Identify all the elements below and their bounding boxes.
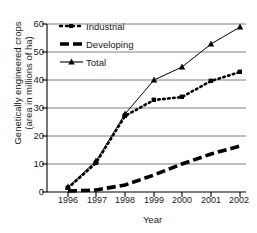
series-line-industrial [68, 72, 240, 188]
series-line-developing [68, 146, 240, 191]
x-axis-ticks [68, 192, 240, 197]
chart-container: Genetically engineered crops(area in mil… [0, 0, 257, 233]
legend-sample-total [60, 59, 83, 65]
y-axis-ticks [42, 24, 47, 192]
series-markers-industrial [66, 70, 242, 190]
plot-area [0, 0, 257, 233]
legend-sample-industrial [60, 24, 83, 28]
